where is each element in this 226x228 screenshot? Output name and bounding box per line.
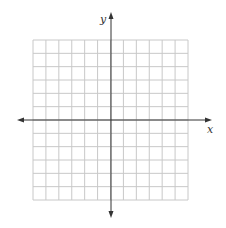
- coordinate-plane: x y: [0, 0, 226, 228]
- x-axis-right-arrow-icon: [205, 118, 212, 123]
- x-axis-label: x: [207, 123, 214, 136]
- x-axis-left-arrow-icon: [17, 118, 24, 123]
- y-axis-up-arrow-icon: [109, 12, 114, 19]
- y-axis-label: y: [99, 13, 107, 26]
- y-axis-down-arrow-icon: [109, 211, 114, 218]
